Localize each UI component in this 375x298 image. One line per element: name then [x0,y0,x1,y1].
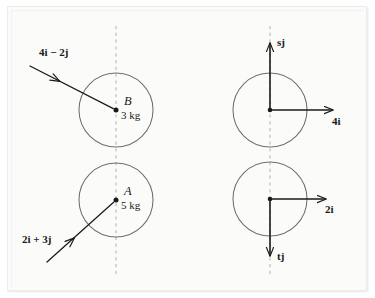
figure-root: 4i − 2j B 3 kg 2i + 3j A 5 kg sj 4 [0,0,375,298]
right-panel-group: sj 4i tj 2i [233,26,341,276]
body-mass-b: 3 kg [121,109,141,121]
body-label-b: B [124,94,132,108]
diagram-canvas: 4i − 2j B 3 kg 2i + 3j A 5 kg sj 4 [0,0,375,298]
body-mass-a: 5 kg [121,199,141,211]
center-dot-body-b [114,108,119,113]
impulse-label-upper-horizontal: 4i [332,115,341,127]
velocity-label-b: 4i − 2j [39,46,69,58]
center-dot-body-a [114,198,119,203]
left-panel-group: 4i − 2j B 3 kg 2i + 3j A 5 kg [22,26,153,276]
body-label-a: A [123,184,132,198]
impulse-label-lower-vertical: tj [277,250,284,262]
velocity-label-a: 2i + 3j [22,233,52,245]
impulse-label-upper-vertical: sj [277,36,285,48]
impulse-label-lower-horizontal: 2i [325,203,334,215]
velocity-vector-b-line [30,66,113,109]
